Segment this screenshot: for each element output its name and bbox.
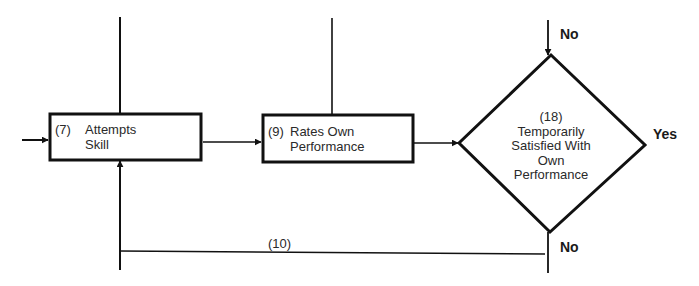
node-7-line2: Skill [55,137,136,152]
node-9-text: (9)Rates Own Performance [268,124,364,154]
node-18-line4: Performance [486,168,616,183]
label-loop-10: (10) [268,236,291,251]
node-18-number: (18) [486,110,616,125]
node-18-line3: Own [486,154,616,169]
node-18-line1: Temporarily [486,125,616,140]
label-bottom-no: No [560,240,579,255]
node-18-text: (18) Temporarily Satisfied With Own Perf… [486,110,616,183]
node-7-line1: Attempts [85,122,136,137]
node-9-line1: Rates Own [290,124,354,139]
node-7-text: (7)Attempts Skill [55,122,136,152]
label-top-no: No [560,27,579,42]
node-7-number: (7) [55,122,85,137]
feedback-line-10 [120,251,545,254]
node-9-number: (9) [268,124,290,139]
label-yes: Yes [653,127,677,142]
node-9-line2: Performance [268,139,364,154]
node-18-line2: Satisfied With [486,139,616,154]
